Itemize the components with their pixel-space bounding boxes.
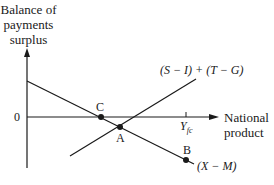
net-exports-line	[27, 81, 194, 164]
point-b-label: B	[183, 143, 191, 158]
savings-tax-line-label: (S − I) + (T − G)	[160, 63, 243, 78]
point-c-label: C	[96, 100, 104, 115]
yfc-label: Yfc	[180, 119, 192, 138]
point-a-marker	[117, 124, 123, 130]
origin-label: 0	[14, 110, 20, 125]
y-axis-label-line3: surplus	[0, 32, 57, 47]
x-axis-label-line2: product	[224, 125, 269, 140]
y-axis-label-line2: payments	[0, 17, 57, 32]
x-axis-label-line1: National	[224, 110, 269, 125]
point-a-label: A	[116, 131, 125, 146]
x-axis-label: National product	[224, 110, 269, 140]
x-axis-arrow-icon	[209, 114, 219, 120]
y-axis-label-line1: Balance of	[0, 2, 57, 17]
yfc-sub: fc	[187, 126, 193, 135]
y-axis-label: Balance of payments surplus	[0, 2, 57, 47]
yfc-main: Y	[180, 119, 187, 133]
net-exports-line-label: (X − M)	[197, 159, 236, 174]
y-axis-arrow-icon	[24, 48, 30, 57]
